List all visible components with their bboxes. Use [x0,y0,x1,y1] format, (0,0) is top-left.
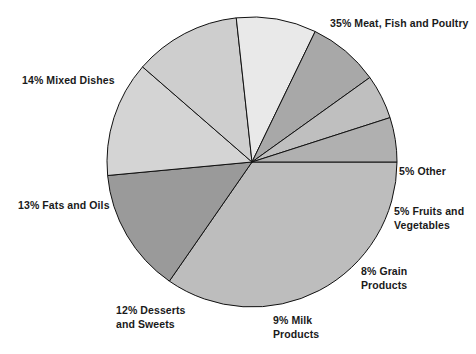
pie-chart-figure: 35% Meat, Fish and Poultry 14% Mixed Dis… [0,0,476,354]
pie-label-desserts-and-sweets: 12% Desserts and Sweets [116,303,186,331]
pie-label-fats-and-oils: 13% Fats and Oils [18,198,110,212]
pie-label-milk-products: 9% Milk Products [273,313,319,341]
pie-label-fruits-and-vegetables: 5% Fruits and Vegetables [394,204,464,232]
pie-slice-group [107,17,397,307]
pie-label-grain-products: 8% Grain Products [361,264,407,292]
pie-label-other: 5% Other [399,164,446,178]
pie-label-mixed-dishes: 14% Mixed Dishes [22,73,115,87]
pie-label-meat-fish-poultry: 35% Meat, Fish and Poultry [330,16,469,30]
